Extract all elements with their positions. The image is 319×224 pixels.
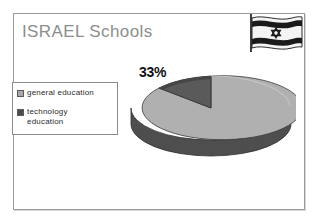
legend-label-general-education: general education bbox=[27, 88, 94, 98]
pie-data-label-33: 33% bbox=[139, 64, 166, 80]
legend-swatch-general-education bbox=[17, 90, 24, 97]
legend-item-general-education: general education bbox=[17, 88, 94, 98]
page-title: ISRAEL Schools bbox=[22, 22, 153, 42]
israel-flag-image bbox=[248, 13, 304, 53]
israel-flag-icon bbox=[248, 13, 304, 53]
slide-root: ISRAEL Schools general education tech bbox=[0, 0, 319, 224]
legend-item-technology-education: technology education bbox=[17, 107, 68, 126]
legend-swatch-technology-education bbox=[17, 109, 24, 116]
chart-legend: general education technology education bbox=[12, 82, 118, 135]
legend-label-technology-education: technology education bbox=[27, 107, 68, 126]
